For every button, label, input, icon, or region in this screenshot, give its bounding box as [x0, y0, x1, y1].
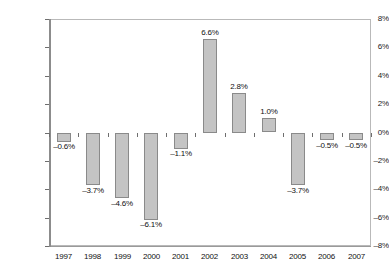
bar-chart: 8%6%4%2%0%–2%–4%–6%–8% –0.6%–3.7%–4.6%–6…	[0, 0, 389, 277]
category-tick-mark	[312, 133, 313, 137]
x-axis-label-2005: 2005	[283, 252, 312, 261]
bar-2003	[232, 93, 246, 133]
category-tick-mark	[137, 133, 138, 137]
bar-2000	[144, 133, 158, 220]
category-tick-mark	[78, 133, 79, 137]
x-axis-label-2006: 2006	[312, 252, 341, 261]
bar-2001	[174, 133, 188, 149]
value-label-2002: 6.6%	[190, 28, 230, 37]
x-axis-label-2000: 2000	[137, 252, 166, 261]
x-axis-label-2001: 2001	[166, 252, 195, 261]
value-label-1999: –4.6%	[102, 199, 142, 208]
bar-1998	[86, 133, 100, 185]
x-axis-label-2007: 2007	[342, 252, 371, 261]
x-axis-label-1997: 1997	[49, 252, 78, 261]
bar-2007	[349, 133, 363, 140]
category-tick-mark	[108, 133, 109, 137]
gridline-neg8	[49, 246, 371, 247]
x-axis-label-2004: 2004	[254, 252, 283, 261]
bar-1997	[57, 133, 71, 142]
value-label-2000: –6.1%	[131, 220, 171, 229]
bar-2004	[262, 118, 276, 132]
value-label-2004: 1.0%	[249, 107, 289, 116]
bar-2005	[291, 133, 305, 185]
bar-2006	[320, 133, 334, 140]
x-axis-label-2002: 2002	[195, 252, 224, 261]
value-label-2003: 2.8%	[219, 82, 259, 91]
value-label-1997: –0.6%	[44, 142, 84, 151]
category-tick-mark	[342, 133, 343, 137]
category-tick-mark	[49, 133, 50, 137]
x-axis-label-1999: 1999	[108, 252, 137, 261]
value-label-2007: –0.5%	[336, 141, 376, 150]
category-tick-mark	[195, 133, 196, 137]
category-tick-mark	[166, 133, 167, 137]
x-axis-label-1998: 1998	[78, 252, 107, 261]
bar-1999	[115, 133, 129, 198]
category-tick-mark	[283, 133, 284, 137]
bar-2002	[203, 39, 217, 133]
category-tick-mark	[225, 133, 226, 137]
category-tick-mark	[371, 133, 372, 137]
value-label-1998: –3.7%	[73, 186, 113, 195]
value-label-2005: –3.7%	[278, 186, 318, 195]
category-tick-mark	[254, 133, 255, 137]
x-axis-label-2003: 2003	[225, 252, 254, 261]
value-label-2001: –1.1%	[161, 149, 201, 158]
